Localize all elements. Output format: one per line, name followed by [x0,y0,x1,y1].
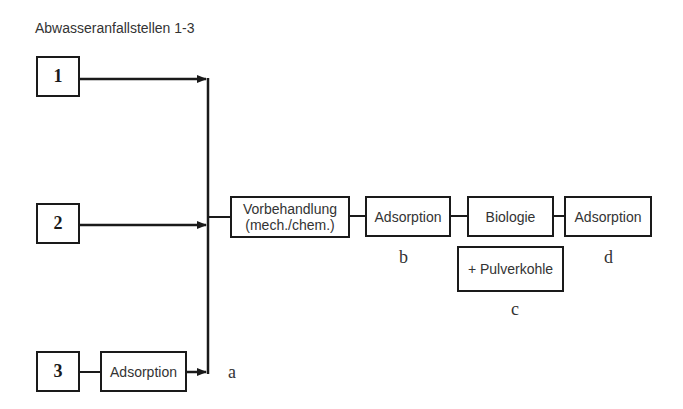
source-box-1: 1 [36,56,80,97]
pre-adsorption-label: Adsorption [110,364,177,380]
source-label: 2 [54,213,63,234]
vorbehandlung-sublabel: (mech./chem.) [245,217,334,233]
source-box-3: 3 [36,351,80,392]
pre-adsorption-box: Adsorption [100,351,187,392]
adsorption-d-box: Adsorption [564,196,652,237]
vorbehandlung-label: Vorbehandlung [243,201,337,217]
source-box-2: 2 [36,203,80,244]
pulverkohle-box: + Pulverkohle [457,246,564,292]
position-label-b: b [399,247,408,268]
position-label-a: a [228,362,236,383]
vorbehandlung-box: Vorbehandlung (mech./chem.) [230,196,350,238]
adsorption-b-label: Adsorption [375,209,442,225]
source-label: 3 [54,361,63,382]
adsorption-b-box: Adsorption [365,196,451,237]
source-label: 1 [54,66,63,87]
biologie-box: Biologie [467,196,554,237]
position-label-d: d [604,247,613,268]
adsorption-d-label: Adsorption [575,209,642,225]
biologie-label: Biologie [486,209,536,225]
position-label-c: c [511,299,519,320]
pulverkohle-label: + Pulverkohle [468,261,553,277]
